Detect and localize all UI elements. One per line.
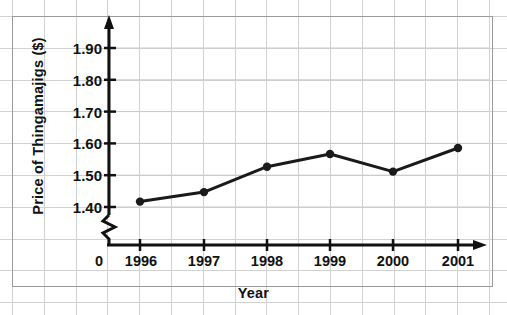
chart-plot-area — [0, 0, 507, 315]
data-point-1997 — [200, 188, 208, 196]
chart-gridlines — [109, 48, 489, 207]
axis-break-icon — [103, 215, 115, 245]
x-axis-line — [107, 240, 487, 250]
y-axis-line — [104, 15, 114, 215]
data-point-1998 — [263, 163, 271, 171]
chart-screenshot: Price of Thingamajigs ($) Year 1.90 1.80… — [0, 0, 507, 315]
data-point-1996 — [136, 197, 144, 205]
data-point-2001 — [454, 144, 462, 152]
data-point-2000 — [389, 167, 397, 175]
data-point-1999 — [326, 150, 334, 158]
